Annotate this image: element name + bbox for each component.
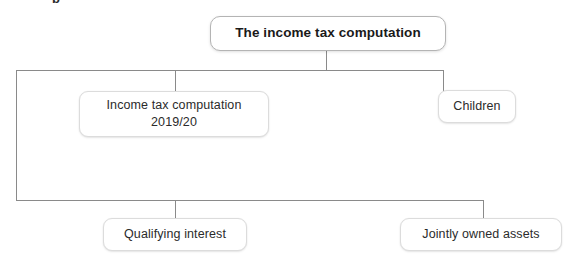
connector-root-stem (326, 50, 327, 71)
clipped-heading-fragment: p (52, 0, 74, 3)
node-qualifying-interest[interactable]: Qualifying interest (103, 218, 247, 251)
connector-drop-jointly-owned-assets (483, 200, 484, 218)
node-children[interactable]: Children (438, 90, 516, 123)
connector-drop-children (443, 70, 444, 92)
diagram-canvas: p The income tax computation Income tax … (0, 0, 568, 258)
connector-drop-income-tax-computation (175, 70, 176, 92)
node-children-label: Children (443, 98, 510, 115)
node-qualifying-interest-label: Qualifying interest (114, 226, 236, 243)
node-root-label: The income tax computation (225, 24, 431, 42)
connector-left-riser (16, 70, 17, 201)
node-income-tax-computation-2019-20[interactable]: Income tax computation 2019/20 (79, 91, 269, 137)
connector-lower-bus (16, 200, 484, 201)
node-income-tax-computation-2019-20-label: Income tax computation 2019/20 (97, 97, 252, 131)
node-jointly-owned-assets[interactable]: Jointly owned assets (400, 218, 562, 251)
node-jointly-owned-assets-label: Jointly owned assets (412, 226, 549, 243)
connector-drop-qualifying-interest (175, 200, 176, 218)
connector-upper-bus (16, 70, 444, 71)
node-root-income-tax-computation[interactable]: The income tax computation (210, 16, 446, 51)
